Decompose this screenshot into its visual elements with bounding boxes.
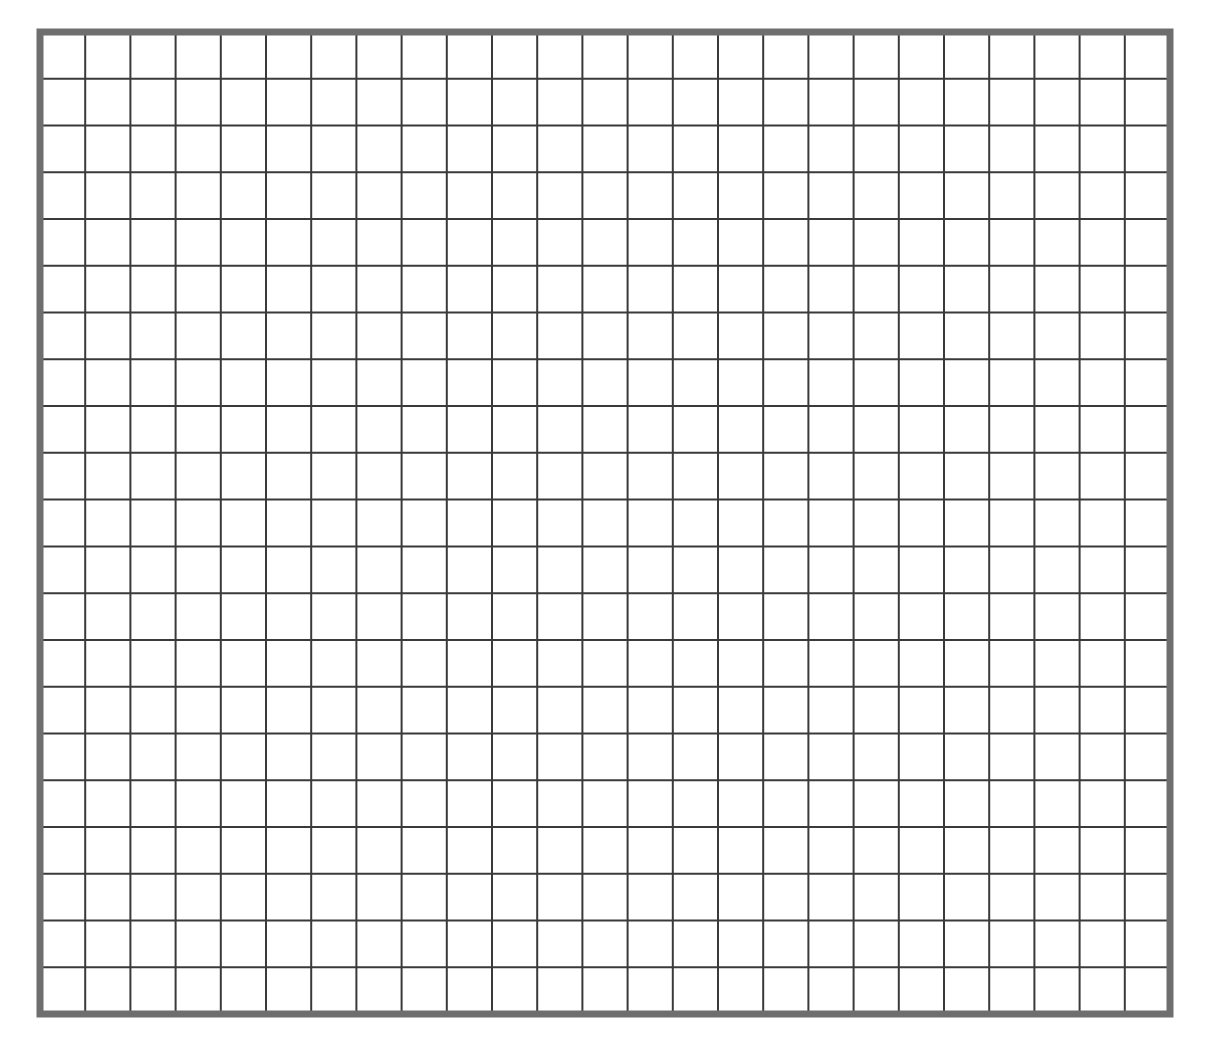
graph-paper-grid <box>36 28 1174 1018</box>
grid-lines <box>40 32 1170 1014</box>
grid-canvas <box>36 28 1174 1018</box>
grid-border <box>40 32 1170 1014</box>
